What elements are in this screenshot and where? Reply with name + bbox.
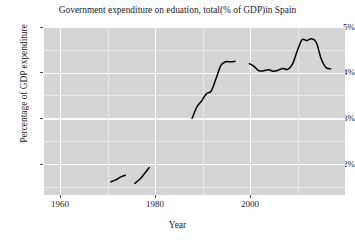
x-tick-mark-1960	[60, 195, 61, 198]
plot-panel	[44, 27, 345, 195]
chart-title: Government expenditure on eduation, tota…	[0, 4, 355, 16]
y-tick-mark-2	[40, 164, 43, 165]
series-segment-late-1970s	[135, 168, 149, 184]
x-axis-label: Year	[0, 220, 355, 231]
y-axis-label: Percentage of GDP expenditure	[19, 4, 30, 164]
x-tick-label-1980: 1980	[135, 199, 175, 209]
x-tick-label-1960: 1960	[40, 199, 80, 209]
y-tick-mark-4	[40, 72, 43, 73]
y-tick-mark-5	[40, 27, 43, 28]
x-tick-mark-1980	[155, 195, 156, 198]
y-tick-mark-3	[40, 118, 43, 119]
chart-figure: Government expenditure on eduation, tota…	[0, 0, 355, 240]
x-tick-label-2000: 2000	[230, 199, 270, 209]
x-tick-mark-2000	[250, 195, 251, 198]
series-segment-1987-1996	[192, 61, 235, 118]
series-segment-1999-2016	[249, 39, 330, 72]
series-line-chart	[44, 27, 345, 195]
series-segment-early-1970s	[111, 175, 125, 182]
